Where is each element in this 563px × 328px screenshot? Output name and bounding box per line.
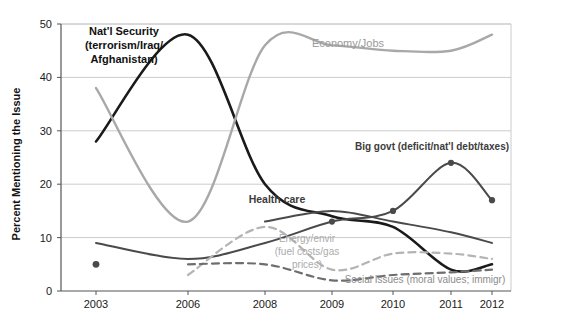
y-tick-label-50: 50 [40,18,52,30]
annotation-line: Nat'l Security [89,25,160,37]
data-point-big-govt-deficit-nat-l-debt-taxes-2012 [489,197,495,203]
data-point-big-govt-deficit-nat-l-debt-taxes-2011 [448,160,454,166]
annotation-line: Energy/envir [279,233,336,244]
annotation-line: Health care [249,193,306,205]
y-axis-title: Percent Mentioning the Issue [10,88,22,241]
annotation-line: Big govt (deficit/nat'l debt/taxes) [355,141,509,152]
data-point-big-govt-deficit-nat-l-debt-taxes-2010 [390,208,396,214]
isolated-data-points [93,261,100,268]
annotation-big-govt: Big govt (deficit/nat'l debt/taxes) [355,141,509,152]
annotation-line: Afghanistan) [90,53,158,65]
x-tick-label-2009: 2009 [320,298,344,310]
annotation-line: prices) [292,259,322,270]
issue-mentions-line-chart: 01020304050 2003200620082009201020112012… [0,0,563,328]
y-axis-title-group: Percent Mentioning the Issue [10,88,22,241]
annotation-economy-jobs: Economy/Jobs [312,37,385,49]
annotation-line: Social Issues (moral values; immigr) [345,274,506,285]
x-tick-label-2012: 2012 [480,298,504,310]
annotation-line: (terrorism/Iraq/ [85,39,163,51]
data-point-big-govt-deficit-nat-l-debt-taxes-2009 [329,218,335,224]
annotation-line: Economy/Jobs [312,37,385,49]
annotation-health-care: Health care [249,193,306,205]
annotation-social-issues: Social Issues (moral values; immigr) [345,274,506,285]
y-tick-label-0: 0 [46,285,52,297]
chart-root: 01020304050 2003200620082009201020112012… [0,0,563,328]
x-tick-label-2011: 2011 [439,298,463,310]
annotation-natl-security: Nat'l Security(terrorism/Iraq/Afghanista… [85,25,163,65]
x-tick-label-2008: 2008 [253,298,277,310]
x-tick-label-2010: 2010 [381,298,405,310]
x-tick-label-2003: 2003 [84,298,108,310]
isolated-data-point-2003 [93,261,100,268]
y-tick-label-20: 20 [40,178,52,190]
y-tick-label-10: 10 [40,232,52,244]
y-tick-label-40: 40 [40,71,52,83]
x-tick-label-2006: 2006 [176,298,200,310]
annotation-line: (fuel costs/gas [275,246,339,257]
y-tick-label-30: 30 [40,125,52,137]
